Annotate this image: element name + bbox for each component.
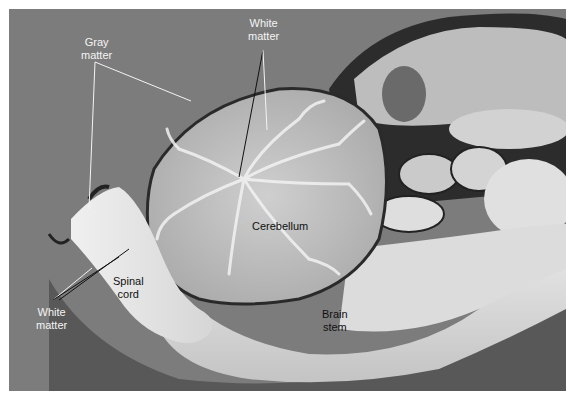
label-cerebellum: Cerebellum bbox=[252, 220, 308, 233]
label-line: stem bbox=[322, 321, 348, 334]
label-gray-matter: Gray matter bbox=[81, 36, 112, 62]
label-line: White bbox=[248, 17, 279, 30]
specimen-illustration bbox=[9, 9, 566, 391]
label-line: matter bbox=[248, 30, 279, 43]
label-white-matter-top: White matter bbox=[248, 17, 279, 43]
label-brain-stem: Brain stem bbox=[322, 308, 348, 334]
label-line: Gray bbox=[81, 36, 112, 49]
label-line: Cerebellum bbox=[252, 220, 308, 233]
label-line: White bbox=[36, 306, 67, 319]
label-white-matter-bottom: White matter bbox=[36, 306, 67, 332]
label-line: cord bbox=[113, 288, 144, 301]
label-line: matter bbox=[81, 49, 112, 62]
label-line: Spinal bbox=[113, 275, 144, 288]
label-line: Brain bbox=[322, 308, 348, 321]
specimen-photo: White matter Gray matter Cerebellum Spin… bbox=[9, 9, 566, 391]
label-spinal-cord: Spinal cord bbox=[113, 275, 144, 301]
label-line: matter bbox=[36, 319, 67, 332]
